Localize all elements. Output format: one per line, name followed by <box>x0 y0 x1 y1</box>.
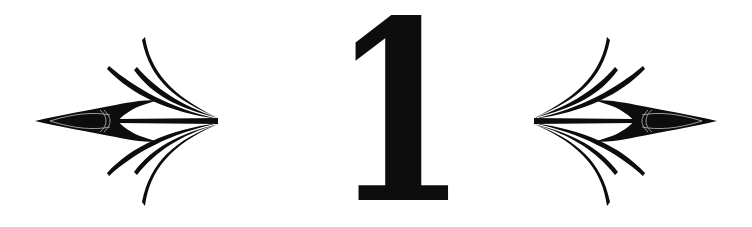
chapter-number: 1 <box>332 2 429 222</box>
right-flourish-icon <box>502 0 752 227</box>
left-flourish-icon <box>0 0 250 227</box>
